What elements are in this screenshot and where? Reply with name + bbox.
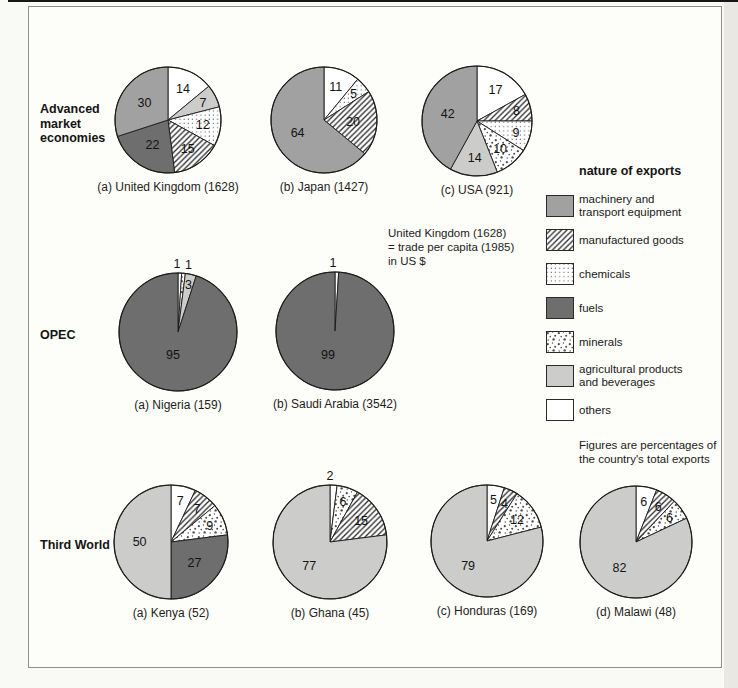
legend-item-minerals: minerals [546,325,721,359]
pie-slice-value: 12 [196,118,210,132]
pie-slice-value: 17 [489,83,503,97]
legend-label-others: others [579,404,697,417]
pie-slice-value: 7 [177,494,184,508]
pie-slice-value: 9 [513,126,520,140]
pie-caption-united-kingdom: (a) United Kingdom (1628) [97,180,238,194]
pie-slice-value: 12 [510,513,524,527]
page-edge-shadow [724,0,738,688]
pie-slice-value: 6 [655,500,662,514]
legend-swatch-manufactured [546,229,574,251]
pie-slice-value: 42 [441,107,455,121]
pie-caption-malawi: (d) Malawi (48) [596,605,676,619]
legend-label-minerals: minerals [579,336,697,349]
pie-slice-value: 82 [613,561,627,575]
legend-label-manufactured: manufactured goods [579,234,697,247]
pie-slice-value: 15 [354,514,368,528]
pie-slice-value: 50 [133,535,147,549]
pie-caption-ghana: (b) Ghana (45) [291,606,370,620]
pie-chart-honduras: 541279 [415,469,559,613]
legend-item-manufactured: manufactured goods [546,223,721,257]
pie-slice-value: 6 [640,495,647,509]
legend-swatch-fuels [546,297,574,319]
pie-slice-value: 6 [666,511,673,525]
legend-swatch-agricultural [546,365,574,387]
legend-title: nature of exports [579,164,721,178]
pie-slice-value: 14 [176,82,190,96]
pie-caption-japan: (b) Japan (1427) [280,180,369,194]
pie-slice-value: 99 [321,348,335,362]
legend-label-machinery: machinery and transport equipment [579,193,697,219]
pie-chart-nigeria: 11395 [103,257,253,407]
legend-label-fuels: fuels [579,302,697,315]
pie-slice-value: 5 [490,493,497,507]
legend-item-others: others [546,393,721,427]
page-top-rule [8,0,738,2]
pie-chart-japan: 1152064 [255,51,393,189]
pie-chart-united-kingdom: 14712152230 [99,51,237,189]
legend-note: Figures are percentages of the country's… [579,438,719,466]
pie-slice-value: 95 [166,348,180,362]
legend-item-fuels: fuels [546,291,721,325]
pie-slice-value: 22 [145,138,159,152]
pie-slice-value: 8 [513,104,520,118]
pie-slice-value: 79 [461,559,475,573]
legend-label-chemicals: chemicals [579,268,697,281]
pie-slice-fuels [119,273,237,391]
pie-caption-kenya: (a) Kenya (52) [133,606,210,620]
pie-caption-saudi-arabia: (b) Saudi Arabia (3542) [273,397,397,411]
pie-slice-value: 14 [468,151,482,165]
pie-slice-value: 64 [291,126,305,140]
legend-swatch-machinery [546,195,574,217]
legend-item-agricultural: agricultural products and beverages [546,359,721,393]
legend-label-agricultural: agricultural products and beverages [579,363,697,389]
pie-slice-value: 7 [199,96,206,110]
pie-slice-value: 7 [193,502,200,516]
pie-chart-kenya: 7792750 [98,469,244,615]
legend-item-chemicals: chemicals [546,257,721,291]
pie-slice-value: 27 [188,556,202,570]
legend-swatch-others [546,399,574,421]
legend-swatch-minerals [546,331,574,353]
legend: nature of exports machinery and transpor… [546,164,721,466]
pie-chart-ghana: 261577 [257,469,403,615]
pie-chart-saudi-arabia: 199 [260,256,410,406]
pie-slice-value: 6 [340,495,347,509]
pie-slice-value: 9 [206,519,213,533]
pie-slice-value: 10 [493,142,507,156]
pie-slice-value: 2 [327,469,334,483]
pie-slice-value: 15 [181,142,195,156]
pie-caption-nigeria: (a) Nigeria (159) [134,398,221,412]
pie-slice-value: 20 [346,115,360,129]
pie-slice-value: 1 [330,256,337,270]
pie-slice-value: 3 [185,278,192,292]
pie-slice-value: 1 [174,257,181,271]
pie-chart-usa: 1789101442 [406,50,548,192]
pie-slice-value: 1 [185,258,192,272]
figure-page: Advanced market economies OPEC Third Wor… [0,0,738,688]
pie-caption-honduras: (c) Honduras (169) [437,604,538,618]
pie-slice-value: 11 [329,80,342,94]
legend-swatch-chemicals [546,263,574,285]
legend-items: machinery and transport equipmentmanufac… [546,189,721,427]
pie-chart-malawi: 66682 [564,470,708,614]
legend-item-machinery: machinery and transport equipment [546,189,721,223]
pie-slice-value: 30 [137,96,151,110]
pie-slice-value: 77 [302,559,316,573]
pie-caption-usa: (c) USA (921) [441,183,514,197]
